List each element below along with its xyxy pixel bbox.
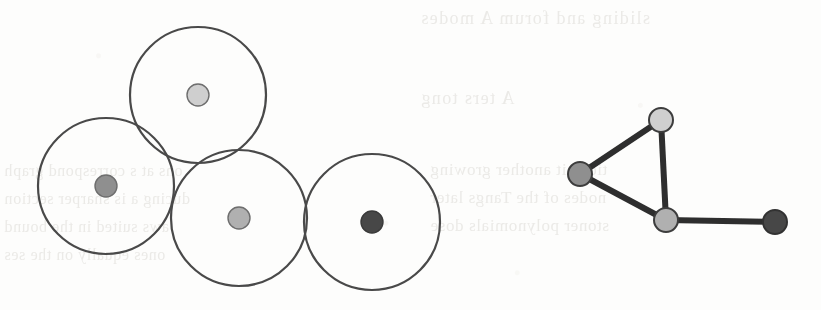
- disk-center-dot-middle: [228, 207, 250, 229]
- graph-edge-bottom-right: [666, 220, 775, 222]
- graph-node-top: [649, 108, 673, 132]
- graph-edge-left-bottom: [580, 174, 666, 220]
- figure-canvas: [0, 0, 821, 310]
- disk-center-dots: [95, 84, 383, 233]
- graph-diagram: [568, 108, 787, 234]
- graph-edge-top-bottom: [661, 120, 666, 220]
- graph-node-left: [568, 162, 592, 186]
- figure-page: sliding and forum A modes A ters tong ti…: [0, 0, 821, 310]
- graph-node-right: [763, 210, 787, 234]
- graph-edge-left-top: [580, 120, 661, 174]
- disk-center-dot-left: [95, 175, 117, 197]
- graph-edges: [580, 120, 775, 222]
- disk-outlines: [38, 27, 440, 290]
- graph-nodes: [568, 108, 787, 234]
- disk-center-dot-top: [187, 84, 209, 106]
- disk-diagram: [38, 27, 440, 290]
- graph-node-bottom: [654, 208, 678, 232]
- disk-center-dot-right: [361, 211, 383, 233]
